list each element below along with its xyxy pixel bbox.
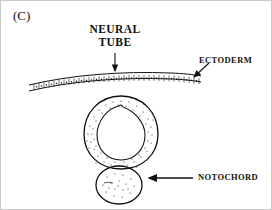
neural-tube-structure <box>84 96 158 169</box>
figure-panel: (C) NEURAL TUBE ECTODERM NOTOCHORD <box>0 0 272 210</box>
label-neural-tube: NEURAL TUBE <box>77 23 153 49</box>
ectoderm-structure <box>29 73 201 92</box>
label-ectoderm: ECTODERM <box>199 56 252 66</box>
label-neural-tube-line2: TUBE <box>77 36 153 49</box>
label-neural-tube-line1: NEURAL <box>77 23 153 36</box>
ectoderm-cell-walls <box>34 75 199 90</box>
label-notochord: NOTOCHORD <box>198 173 258 183</box>
notochord-inner-mark <box>104 182 113 183</box>
notochord-structure <box>96 166 142 204</box>
notochord-stipple <box>102 173 134 197</box>
panel-letter: (C) <box>13 9 30 24</box>
neural-tube-lumen <box>97 105 145 160</box>
